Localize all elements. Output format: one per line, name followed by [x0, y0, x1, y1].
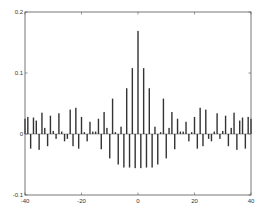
bar — [33, 118, 34, 134]
bar — [222, 131, 223, 134]
bar — [149, 88, 150, 134]
bar — [120, 127, 121, 134]
bar — [106, 128, 107, 134]
bar — [38, 134, 39, 150]
bar — [58, 113, 59, 134]
y-tick-label: 0 — [20, 131, 24, 137]
y-tick-label: 0.2 — [15, 9, 24, 15]
bar — [199, 108, 200, 134]
bar — [67, 134, 68, 139]
bar — [123, 134, 124, 168]
bar — [72, 134, 73, 146]
bar — [27, 117, 28, 134]
bar — [50, 116, 51, 134]
bar — [30, 134, 31, 149]
bar — [137, 31, 138, 134]
bar — [211, 134, 212, 141]
bar — [36, 121, 37, 134]
bar — [157, 134, 158, 165]
bar — [245, 134, 246, 149]
x-tick-label: 20 — [191, 198, 198, 204]
x-tick-label: -20 — [77, 198, 86, 204]
bar — [247, 117, 248, 134]
bar — [188, 134, 189, 141]
bar — [219, 134, 220, 139]
bar — [174, 134, 175, 149]
bar — [197, 134, 198, 149]
bar — [208, 134, 209, 139]
bar — [163, 99, 164, 134]
bar — [231, 128, 232, 134]
bar — [134, 134, 135, 168]
bar — [151, 134, 152, 168]
bar — [194, 117, 195, 134]
bar — [183, 132, 184, 134]
bar — [146, 134, 147, 168]
bar — [214, 132, 215, 134]
y-tick-label: 0.1 — [15, 70, 24, 76]
bar — [78, 134, 79, 149]
bar — [154, 127, 155, 134]
bar — [132, 68, 133, 134]
bar — [98, 119, 99, 134]
bar-series — [24, 31, 251, 168]
bar — [228, 134, 229, 146]
bar — [202, 134, 203, 146]
bar — [89, 122, 90, 134]
bar — [70, 110, 71, 134]
bar — [180, 132, 181, 134]
bar — [101, 134, 102, 149]
bar — [84, 132, 85, 134]
x-tick-label: -40 — [21, 198, 30, 204]
bar — [236, 134, 237, 150]
bar — [81, 117, 82, 134]
x-tick-label: 40 — [248, 198, 255, 204]
bar — [216, 113, 217, 134]
bar — [225, 116, 226, 134]
bar — [41, 113, 42, 134]
bar — [75, 108, 76, 134]
bar — [61, 132, 62, 134]
bar — [126, 88, 127, 134]
bar — [177, 119, 178, 134]
bar — [242, 118, 243, 134]
bar — [44, 128, 45, 134]
bar — [95, 132, 96, 134]
bar — [115, 132, 116, 134]
bar — [239, 121, 240, 134]
bar — [140, 134, 141, 168]
bar — [47, 134, 48, 146]
bar — [129, 134, 130, 168]
bar — [112, 99, 113, 134]
bar — [64, 134, 65, 141]
bar — [92, 132, 93, 134]
bar — [118, 134, 119, 165]
bar — [168, 128, 169, 134]
bar — [109, 134, 110, 158]
bar — [53, 131, 54, 134]
bar — [191, 132, 192, 134]
bar — [205, 110, 206, 134]
bar-chart: -0.100.10.2 -40-2002040 — [0, 0, 264, 213]
bar — [166, 134, 167, 158]
bar — [233, 113, 234, 134]
bar — [143, 68, 144, 134]
bar — [160, 132, 161, 134]
bar — [55, 134, 56, 139]
x-tick-label: 0 — [136, 198, 140, 204]
bar — [103, 112, 104, 134]
bar — [185, 122, 186, 134]
bar — [171, 112, 172, 134]
bar — [86, 134, 87, 141]
